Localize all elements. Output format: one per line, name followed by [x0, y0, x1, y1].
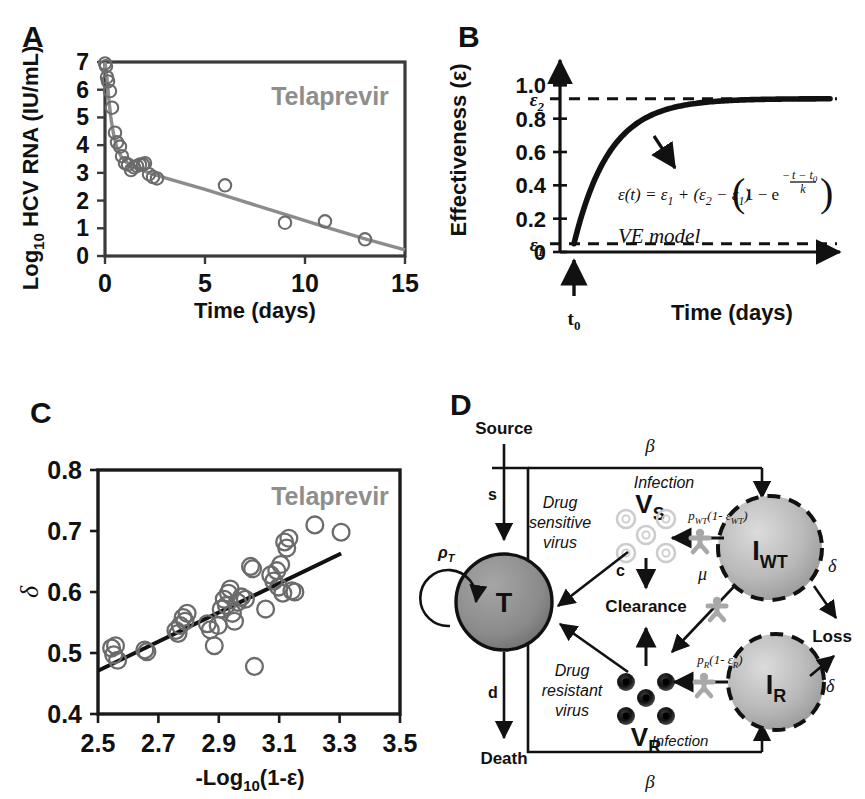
panel-b-chart: Effectiveness (ε) 00.20.40.60.81.0 ε2 ε1… [432, 0, 865, 340]
panel-c-xticks: 2.52.72.93.13.33.5 [81, 714, 418, 757]
panel-d-label: D [450, 390, 472, 420]
svg-text:Effectiveness (ε): Effectiveness (ε) [446, 63, 471, 236]
panel-d-source-label: Source [475, 419, 533, 438]
svg-text:0.5: 0.5 [47, 639, 82, 667]
panel-b-xlabel: Time (days) [671, 300, 793, 325]
svg-text:2: 2 [76, 188, 89, 214]
panel-c-xlabel: -Log10(1-ε) [196, 765, 305, 794]
panel-b-t0-label: t0 [568, 308, 581, 333]
panel-b-equation: ε(t) = ε1 + (ε2 − ε1) ( 1 − e − t − t0 k… [618, 168, 833, 215]
svg-text:5: 5 [198, 269, 212, 297]
panel-d-drug-block-mu-icon [708, 597, 726, 620]
panel-b-curve-pointer-icon [654, 136, 675, 168]
panel-b-model-name: VE model [618, 224, 700, 248]
panel-c-annotation: Telaprevir [271, 482, 389, 510]
panel-d-drug-block-wt-icon [691, 529, 709, 552]
panel-b-eq-minus: − [782, 168, 790, 182]
svg-text:0.4: 0.4 [47, 700, 82, 728]
svg-text:7: 7 [76, 49, 89, 75]
svg-text:0.2: 0.2 [515, 207, 546, 232]
svg-text:2.5: 2.5 [81, 729, 116, 757]
panel-a-label: A [22, 22, 44, 52]
panel-b-ylabel: Effectiveness (ε) [446, 63, 471, 236]
panel-d-rate-s: s [488, 486, 497, 503]
svg-text:2.7: 2.7 [141, 729, 176, 757]
svg-text:0: 0 [98, 269, 112, 297]
panel-d-node-virus-sensitive-label: VS [635, 489, 664, 524]
svg-text:Log10 HCV RNA (IU/mL): Log10 HCV RNA (IU/mL) [18, 46, 47, 290]
panel-d-rate-beta-bottom: β [644, 771, 655, 792]
panel-d-virus-resistant-particles-icon [617, 673, 675, 725]
svg-text:3: 3 [76, 160, 89, 186]
svg-text:10: 10 [291, 269, 319, 297]
panel-b-eq-inner: 1 − e [745, 185, 779, 204]
svg-text:δ: δ [15, 585, 44, 598]
panel-d-drug-resistant-label: Drug resistant virus [542, 662, 603, 719]
panel-c-ylabel: δ [15, 585, 44, 598]
svg-text:3.5: 3.5 [383, 729, 418, 757]
panel-c: C δ 0.40.50.60.70.8 2.52.72.93.13.33.5 T… [0, 380, 432, 799]
panel-c-chart: δ 0.40.50.60.70.8 2.52.72.93.13.33.5 Tel… [0, 380, 432, 799]
panel-d-iwt-loss-arrow [814, 586, 836, 618]
svg-text:15: 15 [391, 269, 419, 297]
svg-text:0.6: 0.6 [515, 140, 546, 165]
panel-d-rate-beta-top: β [644, 435, 655, 456]
svg-text:Drug: Drug [543, 494, 578, 511]
panel-c-yticks: 0.40.50.60.70.8 [47, 456, 98, 728]
panel-d-rate-rho-t: ρT [437, 544, 456, 564]
svg-text:virus: virus [555, 702, 589, 719]
svg-text:(: ( [732, 170, 745, 215]
svg-text:3.1: 3.1 [262, 729, 297, 757]
panel-d-node-infected-wt [718, 496, 822, 600]
svg-text:0.4: 0.4 [515, 173, 546, 198]
panel-d-rate-d: d [488, 684, 498, 701]
panel-b-eps1-label: ε1 [530, 234, 544, 259]
svg-text:0.6: 0.6 [47, 578, 82, 606]
svg-text:virus: virus [543, 534, 577, 551]
panel-d-drug-sensitive-label: Drug sensitive virus [529, 494, 591, 551]
svg-text:ε(t) = ε1 + (ε2 − ε1): ε(t) = ε1 + (ε2 − ε1) [618, 185, 750, 208]
panel-d-rate-c: c [616, 562, 625, 579]
panel-a-ylabel: Log10 HCV RNA (IU/mL) [18, 46, 47, 290]
svg-text:1: 1 [76, 215, 89, 241]
panel-d-node-virus-resistant-label: VR [631, 722, 661, 757]
panel-d: D Sou [432, 380, 865, 799]
panel-d-drug-block-r-icon [695, 673, 713, 696]
svg-text:3.3: 3.3 [322, 729, 357, 757]
panel-b: B Effectiveness (ε) 00.20.40.60.81.0 ε2 … [432, 0, 865, 340]
svg-text:sensitive: sensitive [529, 514, 591, 531]
svg-text:0.7: 0.7 [47, 517, 82, 545]
panel-d-diagram: Source s T ρT d Death β β Infection Infe… [432, 380, 865, 799]
svg-text:Drug: Drug [555, 662, 590, 679]
panel-d-rate-delta-top: δ [828, 556, 837, 576]
svg-text:2.9: 2.9 [201, 729, 236, 757]
svg-text:): ) [820, 170, 833, 215]
panel-a-yticks: 01234567 [76, 49, 105, 269]
svg-text:resistant: resistant [542, 682, 603, 699]
panel-d-node-target-label: T [496, 588, 513, 618]
svg-text:4: 4 [76, 132, 89, 158]
panel-d-death-label: Death [480, 749, 527, 768]
panel-a: A Log10 HCV RNA (IU/mL) 01234567 051015 … [0, 0, 432, 340]
panel-a-xticks: 051015 [98, 256, 419, 297]
panel-c-label: C [30, 398, 52, 428]
svg-text:0.8: 0.8 [47, 456, 82, 484]
panel-b-eq-exp-den: k [800, 182, 806, 196]
panel-d-loss-label: Loss [812, 627, 852, 646]
panel-d-rate-mu: μ [697, 564, 707, 584]
panel-a-chart: Log10 HCV RNA (IU/mL) 01234567 051015 Te… [0, 0, 432, 340]
svg-text:6: 6 [76, 77, 89, 103]
panel-d-node-infected-r [728, 634, 824, 730]
svg-text:5: 5 [76, 104, 89, 130]
panel-b-label: B [458, 22, 480, 52]
panel-a-annotation: Telaprevir [271, 82, 389, 110]
panel-d-rate-delta-bottom: δ [826, 676, 835, 696]
panel-a-xlabel: Time (days) [194, 298, 316, 323]
svg-text:0: 0 [76, 243, 89, 269]
panel-d-clearance-label: Clearance [605, 597, 686, 616]
